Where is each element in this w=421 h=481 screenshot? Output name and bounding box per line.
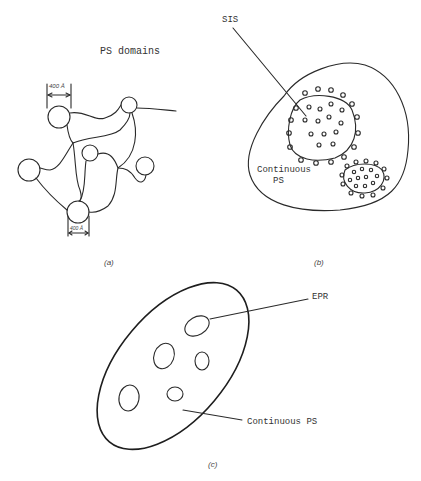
sis-leader-line	[233, 28, 306, 116]
epr-domain	[195, 352, 209, 370]
caption-b: (b)	[314, 258, 324, 267]
scale-bar-top: 400 Å	[47, 83, 71, 108]
scale-label-top: 400 Å	[49, 83, 65, 89]
ps-domain	[67, 201, 89, 223]
epr-domain	[150, 340, 178, 371]
panel-b: SIS	[222, 15, 409, 267]
sis-small-inner-dots	[348, 167, 378, 187]
ps-domain	[121, 97, 137, 113]
epr-domain	[117, 383, 141, 412]
caption-c: (c)	[208, 460, 218, 469]
panel-a: PS domains 400 Å 4	[18, 46, 176, 267]
ps-domain	[136, 157, 154, 175]
scale-label-bottom: 400 Å	[70, 225, 84, 231]
ps-domain	[82, 145, 98, 161]
epr-domain	[181, 312, 213, 341]
caption-a: (a)	[104, 258, 114, 267]
figure-canvas: PS domains 400 Å 4	[0, 0, 421, 481]
continuous-ps-label-line1: Continuous	[257, 165, 311, 175]
continuous-ps-ellipse	[68, 255, 278, 476]
continuous-ps-label: Continuous PS	[247, 417, 317, 427]
epr-leader-line	[210, 299, 308, 319]
continuous-ps-label-line2: PS	[273, 176, 284, 186]
sis-inner-dots	[303, 102, 344, 147]
continuous-ps-leader-line	[183, 410, 242, 420]
ps-domains-title: PS domains	[100, 46, 160, 57]
panel-c: EPR Continuous PS (c)	[68, 255, 329, 476]
epr-domain	[167, 387, 183, 401]
epr-label: EPR	[312, 292, 329, 302]
sis-domain-large	[288, 96, 355, 161]
ps-domain	[18, 159, 40, 181]
sis-outer-dots	[287, 87, 361, 166]
sis-label: SIS	[222, 15, 238, 25]
